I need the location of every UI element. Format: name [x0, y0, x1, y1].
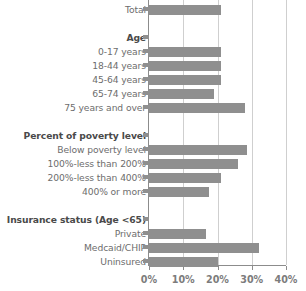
category-label: Total: [0, 3, 146, 17]
chart-data-row: Total: [0, 3, 306, 17]
category-label: 200%-less than 400%: [0, 171, 146, 185]
chart-group-header-row: Age: [0, 31, 306, 45]
chart-data-row: 75 years and over: [0, 101, 306, 115]
y-axis-tick: [143, 35, 149, 39]
group-header-label: Age: [0, 31, 146, 45]
bar-track: [149, 157, 289, 171]
chart-data-row: 400% or more: [0, 185, 306, 199]
x-axis-tick: [286, 266, 287, 270]
bar: [149, 61, 221, 71]
bar: [149, 5, 221, 15]
bar: [149, 229, 206, 239]
y-axis-tick: [143, 49, 149, 53]
chart-group-header-row: Percent of poverty level: [0, 129, 306, 143]
x-axis-tick-label: 20%: [206, 274, 229, 285]
x-axis-tick: [218, 266, 219, 270]
category-label: 45-64 years: [0, 73, 146, 87]
chart-data-row: Medcaid/CHIP: [0, 241, 306, 255]
bar: [149, 187, 209, 197]
bar-track: [149, 101, 289, 115]
category-label: 400% or more: [0, 185, 146, 199]
bar-track: [149, 255, 289, 269]
y-axis-tick: [143, 91, 149, 95]
category-label: Private: [0, 227, 146, 241]
category-label: 100%-less than 200%: [0, 157, 146, 171]
bar-track: [149, 87, 289, 101]
x-axis-tick: [252, 266, 253, 270]
x-axis-tick-label: 0%: [141, 274, 157, 285]
bar-track: [149, 143, 289, 157]
x-axis-tick-label: 10%: [172, 274, 195, 285]
chart-data-row: 18-44 years: [0, 59, 306, 73]
y-axis-tick: [143, 105, 149, 109]
category-label: 75 years and over: [0, 101, 146, 115]
bar-track: [149, 45, 289, 59]
bar: [149, 75, 221, 85]
y-axis-tick: [143, 7, 149, 11]
bar: [149, 145, 247, 155]
chart-data-row: 0-17 years: [0, 45, 306, 59]
bar: [149, 89, 214, 99]
bar: [149, 173, 221, 183]
bar: [149, 159, 238, 169]
x-axis-tick-label: 40%: [275, 274, 298, 285]
y-axis-tick: [143, 259, 149, 263]
y-axis-tick: [143, 245, 149, 249]
y-axis-tick: [143, 63, 149, 67]
y-axis-tick: [143, 161, 149, 165]
y-axis-tick: [143, 231, 149, 235]
chart-data-row: 200%-less than 400%: [0, 171, 306, 185]
category-label: Below poverty level: [0, 143, 146, 157]
x-axis-tick: [183, 266, 184, 270]
bar-track: [149, 129, 289, 143]
category-label: 18-44 years: [0, 59, 146, 73]
category-label: 65-74 years: [0, 87, 146, 101]
y-axis-tick: [143, 147, 149, 151]
chart-data-row: Uninsured: [0, 255, 306, 269]
group-header-label: Insurance status (Age <65): [0, 213, 146, 227]
chart-group-header-row: Insurance status (Age <65): [0, 213, 306, 227]
chart-data-row: Private: [0, 227, 306, 241]
y-axis-tick: [143, 133, 149, 137]
bar: [149, 103, 245, 113]
bar: [149, 243, 259, 253]
chart-data-row: Below poverty level: [0, 143, 306, 157]
y-axis-tick: [143, 77, 149, 81]
chart-data-row: 45-64 years: [0, 73, 306, 87]
x-axis-tick: [149, 266, 150, 270]
bar-track: [149, 171, 289, 185]
chart-data-row: 65-74 years: [0, 87, 306, 101]
bar-chart: TotalAge0-17 years18-44 years45-64 years…: [0, 0, 306, 291]
group-header-label: Percent of poverty level: [0, 129, 146, 143]
y-axis-tick: [143, 175, 149, 179]
bar-track: [149, 185, 289, 199]
bar-track: [149, 241, 289, 255]
bar-track: [149, 227, 289, 241]
bar-track: [149, 213, 289, 227]
category-label: 0-17 years: [0, 45, 146, 59]
y-axis-tick: [143, 189, 149, 193]
bar-track: [149, 3, 289, 17]
bar-track: [149, 31, 289, 45]
bar-track: [149, 73, 289, 87]
x-axis-tick-label: 30%: [240, 274, 263, 285]
chart-data-row: 100%-less than 200%: [0, 157, 306, 171]
bar: [149, 47, 221, 57]
category-label: Uninsured: [0, 255, 146, 269]
bar-track: [149, 59, 289, 73]
category-label: Medcaid/CHIP: [0, 241, 146, 255]
y-axis-tick: [143, 217, 149, 221]
